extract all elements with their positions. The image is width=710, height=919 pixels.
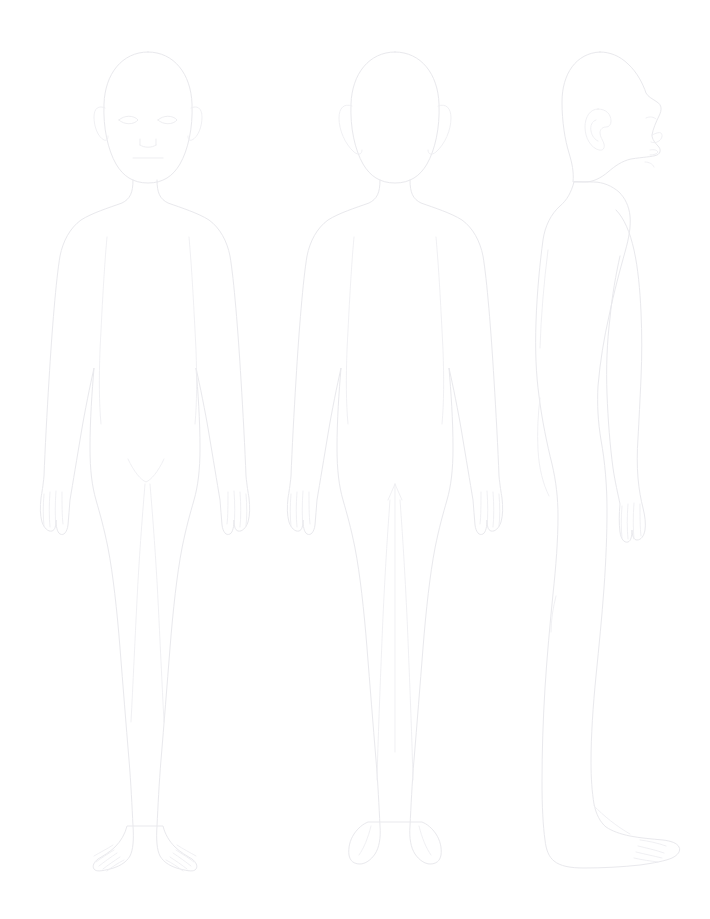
body-diagram-canvas (0, 0, 710, 919)
posterior-gluteal-cleft-arrow (388, 484, 402, 752)
anterior-head-outline (104, 52, 192, 183)
lateral-buttock-contour (538, 398, 549, 496)
body-diagram-page (0, 0, 710, 919)
posterior-inner-thigh-left (377, 500, 390, 780)
anterior-left-hand-fingers (43, 491, 63, 527)
lateral-foot-toes (634, 840, 666, 862)
posterior-right-heel-line (419, 826, 431, 855)
lateral-spine-contour (540, 250, 548, 348)
anterior-left-eye (119, 116, 138, 124)
posterior-inner-thigh-right (400, 500, 413, 780)
posterior-left-heel-line (359, 826, 371, 855)
anterior-inner-thigh-left (131, 484, 145, 722)
anterior-right-foot-toes (166, 845, 196, 871)
figure-lateral[interactable] (536, 52, 680, 868)
figure-anterior[interactable] (40, 52, 249, 871)
anterior-chest-contour-right (189, 237, 197, 424)
anterior-crotch (128, 459, 164, 482)
anterior-body-outline (40, 180, 249, 871)
posterior-right-hand-fingers (480, 491, 500, 527)
lateral-ear-whorl (591, 120, 598, 141)
posterior-back-contour-left (346, 237, 354, 424)
posterior-head-outline (351, 52, 439, 183)
lateral-chin-profile (645, 162, 654, 167)
anterior-chest-contour-left (99, 237, 107, 424)
lateral-head-outline (562, 52, 661, 182)
anterior-left-foot-toes (94, 845, 124, 871)
figure-posterior[interactable] (287, 52, 502, 864)
lateral-arm-outline (607, 210, 646, 542)
lateral-lips-profile (650, 150, 658, 155)
anterior-right-eye (158, 116, 177, 124)
lateral-body-outline (536, 182, 680, 868)
anterior-inner-thigh-right (150, 484, 164, 722)
anterior-right-hand-fingers (227, 491, 247, 527)
anterior-nose (140, 139, 156, 147)
lateral-hand-fingers (621, 503, 641, 539)
lateral-ear-icon (585, 109, 611, 150)
lateral-brow-profile (646, 117, 656, 119)
posterior-back-contour-right (436, 237, 444, 424)
posterior-left-hand-fingers (290, 491, 310, 527)
lateral-knee-contour (551, 596, 556, 632)
